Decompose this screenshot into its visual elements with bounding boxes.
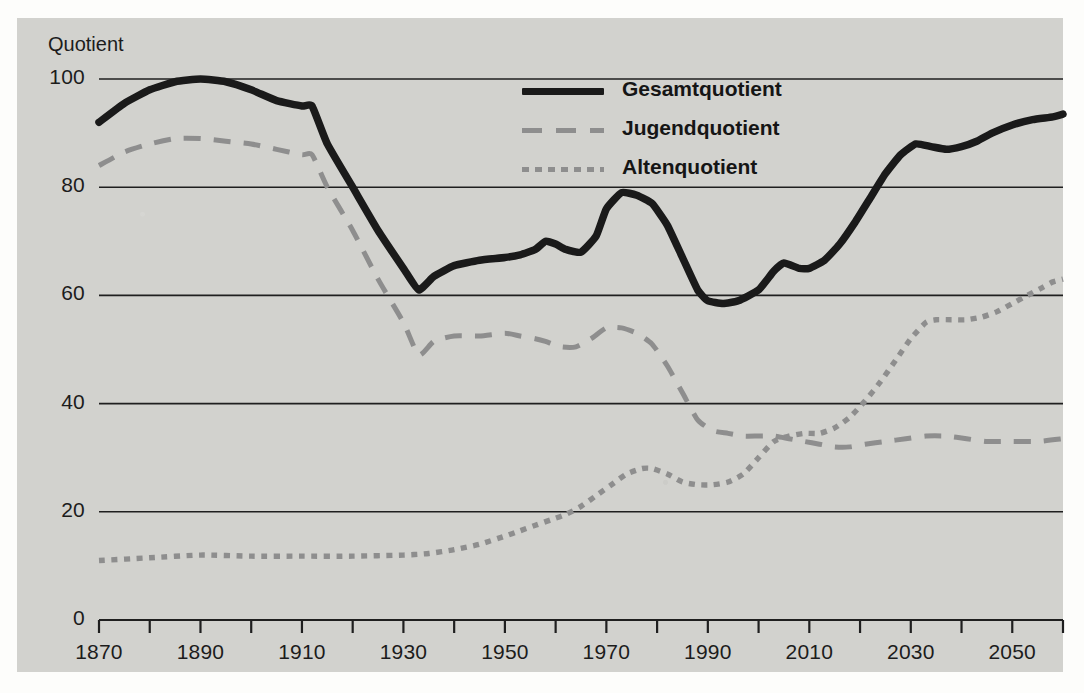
legend-label: Jugendquotient — [622, 116, 779, 140]
legend-swatch-dotted-icon — [522, 167, 604, 172]
gridlines — [99, 79, 1063, 620]
x-axis — [99, 620, 1063, 633]
y-tick-label: 100 — [15, 65, 85, 89]
series-line-jugendquotient — [99, 138, 1063, 447]
y-tick-label: 20 — [15, 498, 85, 522]
x-tick-label: 1930 — [358, 640, 448, 664]
y-tick-label: 60 — [15, 281, 85, 305]
x-tick-label: 1890 — [155, 640, 245, 664]
y-tick-label: 0 — [15, 606, 85, 630]
x-tick-label: 1910 — [257, 640, 347, 664]
chart-screenshot: Quotient 020406080100 187018901910193019… — [0, 0, 1084, 693]
x-tick-label: 1950 — [460, 640, 550, 664]
x-tick-label: 1870 — [54, 640, 144, 664]
y-tick-label: 80 — [15, 173, 85, 197]
legend-label: Altenquotient — [622, 155, 757, 179]
x-tick-label: 2030 — [866, 640, 956, 664]
legend-label: Gesamtquotient — [622, 77, 782, 101]
series-line-gesamtquotient — [99, 79, 1063, 304]
y-tick-label: 40 — [15, 390, 85, 414]
series-layer — [99, 79, 1063, 560]
legend-swatch-dashed-icon — [522, 128, 604, 133]
series-line-altenquotient — [99, 279, 1063, 560]
x-tick-label: 1970 — [561, 640, 651, 664]
x-tick-label: 2010 — [764, 640, 854, 664]
chart-plot-area — [0, 0, 1084, 693]
legend-swatch-solid-icon — [522, 88, 604, 95]
x-tick-label: 1990 — [663, 640, 753, 664]
x-tick-label: 2050 — [967, 640, 1057, 664]
